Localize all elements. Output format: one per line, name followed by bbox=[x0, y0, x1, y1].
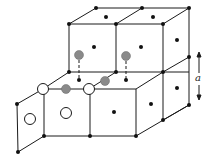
lattice-atom bbox=[94, 6, 98, 10]
open-atom bbox=[61, 108, 72, 119]
open-vacancy-atoms bbox=[25, 84, 95, 125]
lattice-atom bbox=[187, 6, 191, 10]
lattice-atom bbox=[140, 6, 144, 10]
lattice-atom bbox=[88, 134, 92, 138]
lattice-atom bbox=[175, 38, 179, 42]
lattice-atom bbox=[15, 102, 19, 106]
lattice-atom bbox=[124, 78, 128, 82]
lattice-atom bbox=[16, 150, 20, 154]
lattice-edge bbox=[18, 136, 44, 152]
lattice-edge bbox=[136, 72, 163, 89]
lattice-atom bbox=[42, 134, 46, 138]
lattice-atom bbox=[161, 118, 165, 122]
lattice-atom bbox=[104, 15, 108, 19]
lattice-atom bbox=[161, 70, 165, 74]
gray-adatom bbox=[75, 51, 84, 60]
lattice-atom bbox=[134, 134, 138, 138]
lattice-edge bbox=[163, 57, 189, 72]
fcc-lattice-diagram bbox=[0, 0, 206, 164]
gray-adatom bbox=[122, 52, 131, 61]
lattice-edge bbox=[116, 8, 142, 24]
lattice-atom bbox=[67, 70, 71, 74]
lattice-edge bbox=[69, 8, 96, 24]
lattice-atom bbox=[67, 22, 71, 26]
lattice-atom bbox=[151, 15, 155, 19]
lattice-edge bbox=[17, 104, 18, 152]
lattice-atom bbox=[161, 22, 165, 26]
lattice-atom bbox=[114, 70, 118, 74]
lattice-atom bbox=[149, 102, 153, 106]
open-atom bbox=[25, 114, 36, 125]
lattice-constant-label: a bbox=[195, 72, 201, 83]
lattice-atom bbox=[92, 45, 96, 49]
gray-adatom bbox=[101, 77, 110, 86]
arrow-down-head-icon bbox=[197, 95, 201, 100]
open-atom bbox=[84, 84, 95, 95]
arrow-up-head-icon bbox=[197, 52, 201, 57]
lattice-atom bbox=[187, 55, 191, 59]
lattice-atom bbox=[175, 86, 179, 90]
lattice-atom bbox=[139, 45, 143, 49]
lattice-atom bbox=[187, 103, 191, 107]
lattice-atom bbox=[112, 110, 116, 114]
lattice-edge bbox=[163, 8, 189, 24]
gray-adatom bbox=[62, 85, 71, 94]
open-atom bbox=[38, 84, 49, 95]
lattice-edge bbox=[163, 105, 189, 120]
lattice-atom bbox=[77, 78, 81, 82]
lattice-atom bbox=[114, 22, 118, 26]
